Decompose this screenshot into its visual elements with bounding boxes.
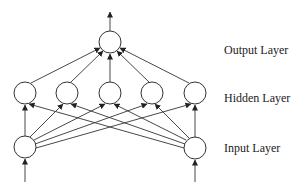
hidden-node [99,82,121,104]
output-layer-label: Output Layer [224,43,288,57]
output-node [99,31,121,53]
hidden-node [56,82,78,104]
output-layer-nodes [99,31,121,53]
hidden-layer-label: Hidden Layer [224,91,290,105]
hidden-node [14,82,36,104]
input-arrows [25,159,195,182]
input-layer-nodes [14,136,206,159]
hidden-layer-nodes [14,82,206,104]
input-layer-label: Input Layer [224,141,280,155]
hidden-node [184,82,206,104]
input-hidden-edges [25,104,195,148]
neural-network-diagram: Output Layer Hidden Layer Input Layer [0,0,300,187]
hidden-node [141,82,163,104]
input-node [14,136,36,158]
input-node [184,137,206,159]
